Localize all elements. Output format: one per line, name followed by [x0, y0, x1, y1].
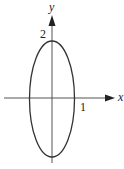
y-axis-label: y	[48, 0, 55, 14]
x-axis-arrow-icon	[105, 95, 115, 102]
diagram-svg: x y 1 2	[0, 0, 124, 169]
y-axis-arrow-icon	[49, 15, 56, 26]
y-intercept-label: 2	[40, 27, 46, 41]
x-intercept-label: 1	[80, 100, 86, 114]
ellipse-diagram: x y 1 2	[0, 0, 124, 169]
x-axis-label: x	[117, 90, 124, 104]
